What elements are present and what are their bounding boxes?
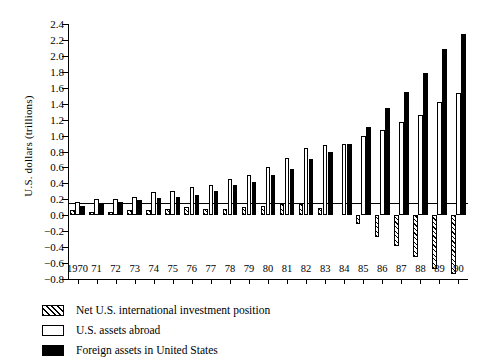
x-axis-tick (439, 279, 440, 284)
bar-net-89 (432, 215, 437, 268)
bar-fgn-75 (176, 197, 181, 215)
x-axis-tick (363, 279, 364, 284)
bar-usa-81 (285, 158, 290, 215)
x-axis-tick-label: 80 (259, 262, 277, 276)
bar-fgn-90 (461, 34, 466, 215)
bar-usa-86 (380, 130, 385, 215)
x-axis-tick-label: 81 (278, 262, 296, 276)
x-axis-tick-label: 74 (145, 262, 163, 276)
y-axis-tick (62, 152, 68, 153)
bar-fgn-78 (233, 185, 238, 215)
chart-figure: U.S. dollars (trillions) 2.42.22.01.81.6… (0, 0, 483, 363)
bar-usa-74 (151, 192, 156, 215)
x-axis-tick (135, 279, 136, 284)
x-axis-tick (401, 279, 402, 284)
y-axis-tick-label: −0.4 (30, 242, 64, 252)
x-axis-tick-label: 79 (240, 262, 258, 276)
y-axis-tick (62, 104, 68, 105)
bar-usa-80 (266, 167, 271, 216)
bar-fgn-1970 (80, 206, 85, 215)
y-axis-tick-label: −0.6 (30, 258, 64, 268)
bar-usa-71 (94, 199, 99, 215)
bar-net-72 (108, 212, 113, 215)
y-axis-tick-label: 0.0 (30, 210, 64, 220)
bar-net-87 (394, 215, 399, 245)
x-axis-tick-label: 76 (183, 262, 201, 276)
x-axis-tick-label: 73 (126, 262, 144, 276)
x-axis-tick (325, 279, 326, 284)
bar-usa-76 (190, 187, 195, 215)
y-axis-tick (62, 279, 68, 280)
x-axis-tick-label: 72 (107, 262, 125, 276)
legend-label: U.S. assets abroad (76, 324, 160, 336)
bar-fgn-82 (309, 159, 314, 215)
y-axis-tick-label: 0.8 (30, 147, 64, 157)
bar-fgn-85 (366, 127, 371, 215)
legend-item-net: Net U.S. international investment positi… (42, 300, 270, 320)
y-axis-tick-label: 0.2 (30, 194, 64, 204)
x-axis-tick-label: 78 (221, 262, 239, 276)
y-axis-tick (62, 215, 68, 216)
y-axis-tick-label: 0.4 (30, 178, 64, 188)
x-axis-tick-label: 84 (335, 262, 353, 276)
bar-fgn-79 (252, 182, 257, 215)
x-axis-tick-label: 89 (430, 262, 448, 276)
y-axis-tick (62, 199, 68, 200)
y-axis-tick (62, 231, 68, 232)
y-axis-tick (62, 24, 68, 25)
bar-net-75 (165, 209, 170, 215)
y-axis-tick (62, 183, 68, 184)
bar-usa-83 (323, 145, 328, 215)
y-axis-tick (62, 167, 68, 168)
bar-usa-89 (437, 102, 442, 215)
bar-usa-90 (456, 93, 461, 215)
y-axis-tick-label: 0.6 (30, 162, 64, 172)
bar-net-76 (184, 207, 189, 215)
x-axis-tick (458, 279, 459, 284)
y-axis-tick (62, 40, 68, 41)
x-axis-tick-label: 75 (164, 262, 182, 276)
y-axis-tick-label: 1.8 (30, 67, 64, 77)
y-axis-tick (62, 88, 68, 89)
x-axis-tick (78, 279, 79, 284)
bar-net-78 (223, 209, 228, 215)
bar-fgn-73 (137, 200, 142, 215)
bar-fgn-88 (423, 73, 428, 216)
y-axis-tick-label: 2.2 (30, 35, 64, 45)
bar-usa-72 (113, 199, 118, 215)
bar-fgn-72 (118, 202, 123, 216)
bar-net-83 (318, 208, 323, 215)
x-axis-tick (97, 279, 98, 284)
bar-net-74 (146, 210, 151, 216)
y-axis-tick-label: 1.6 (30, 83, 64, 93)
legend-label: Foreign assets in United States (76, 344, 218, 356)
black-swatch-icon (42, 345, 64, 356)
x-axis-tick (420, 279, 421, 284)
legend: Net U.S. international investment positi… (42, 300, 270, 360)
bar-net-88 (413, 215, 418, 257)
legend-item-us-assets-abroad: U.S. assets abroad (42, 320, 270, 340)
x-axis-tick (344, 279, 345, 284)
y-axis-tick-label: 2.0 (30, 51, 64, 61)
bar-fgn-80 (271, 175, 276, 215)
x-axis-tick-label: 77 (202, 262, 220, 276)
bar-fgn-81 (290, 169, 295, 215)
y-axis-tick-label: 1.4 (30, 99, 64, 109)
x-axis-tick-label: 90 (449, 262, 467, 276)
x-axis-tick-label: 86 (373, 262, 391, 276)
y-axis-tick-label: −0.8 (30, 274, 64, 284)
x-axis-tick-labels: 1970717273747576777879808182838485868788… (68, 262, 468, 278)
bar-usa-78 (228, 179, 233, 215)
bar-usa-82 (304, 148, 309, 215)
bar-net-85 (356, 215, 361, 224)
bar-fgn-83 (328, 152, 333, 215)
bar-usa-79 (247, 175, 252, 216)
bar-fgn-77 (214, 191, 219, 215)
bar-usa-84 (342, 144, 347, 216)
x-axis-tick (382, 279, 383, 284)
bar-fgn-84 (347, 144, 352, 216)
white-swatch-icon (42, 325, 64, 336)
bar-usa-85 (361, 136, 366, 216)
hatched-swatch-icon (42, 305, 64, 316)
bar-usa-73 (132, 197, 137, 215)
